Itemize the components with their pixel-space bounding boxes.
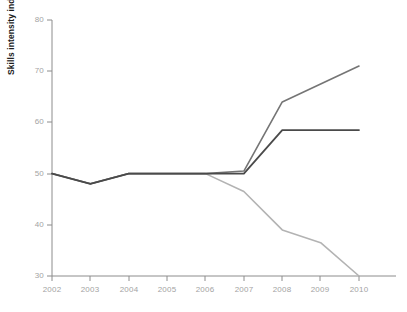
- line-chart: Skills intensity index relative to 2002 …: [0, 0, 407, 312]
- y-axis-ticks: [47, 20, 52, 276]
- data-line-medium-gray: [52, 66, 359, 184]
- axis-lines: [52, 20, 396, 276]
- x-axis-ticks: [52, 276, 359, 281]
- data-line-dark-gray: [52, 130, 359, 184]
- data-line-light-gray: [52, 174, 359, 276]
- plot-area: [0, 0, 407, 312]
